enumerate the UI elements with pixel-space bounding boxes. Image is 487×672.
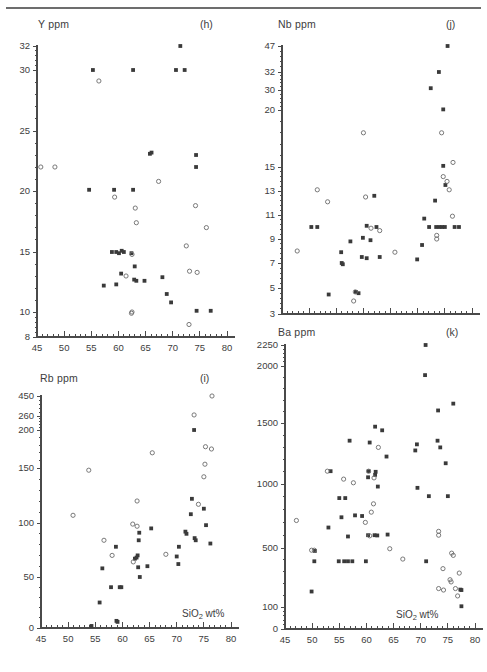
data-point-filled-square — [177, 545, 181, 549]
data-point-open-circle — [441, 567, 445, 571]
data-point-open-circle — [388, 547, 392, 551]
data-point-filled-square — [131, 188, 135, 192]
svg-text:0: 0 — [273, 623, 278, 634]
svg-text:10: 10 — [19, 306, 30, 317]
data-point-filled-square — [346, 535, 350, 539]
svg-text:1000: 1000 — [257, 478, 278, 489]
data-point-open-circle — [53, 165, 57, 169]
panel-rb-plot: 4502602001501005004550556065707580 — [0, 340, 244, 672]
data-point-filled-square — [437, 70, 441, 74]
data-point-filled-square — [349, 240, 353, 244]
svg-text:60: 60 — [361, 634, 372, 645]
data-point-filled-square — [309, 225, 313, 229]
data-point-open-circle — [456, 594, 460, 598]
data-point-open-circle — [124, 274, 128, 278]
data-point-open-circle — [202, 475, 206, 479]
data-point-filled-square — [385, 455, 389, 459]
svg-text:70: 70 — [415, 634, 426, 645]
data-point-filled-square — [112, 188, 116, 192]
data-point-filled-square — [369, 238, 373, 242]
data-point-filled-square — [420, 243, 424, 247]
data-point-filled-square — [134, 279, 138, 283]
data-point-filled-square — [423, 373, 427, 377]
data-point-filled-square — [453, 225, 457, 229]
data-point-open-circle — [450, 214, 454, 218]
data-point-open-circle — [364, 195, 368, 199]
data-point-filled-square — [149, 527, 153, 531]
data-point-open-circle — [210, 394, 214, 398]
data-point-open-circle — [326, 200, 330, 204]
data-point-filled-square — [185, 532, 189, 536]
svg-text:47: 47 — [264, 40, 275, 51]
svg-text:75: 75 — [199, 633, 210, 644]
data-point-filled-square — [122, 250, 126, 254]
data-point-filled-square — [315, 225, 319, 229]
data-point-filled-square — [195, 309, 199, 313]
data-point-filled-square — [376, 485, 380, 489]
data-point-filled-square — [194, 538, 198, 542]
data-point-filled-square — [209, 309, 213, 313]
data-point-open-circle — [187, 269, 191, 273]
data-point-filled-square — [380, 428, 384, 432]
data-point-open-circle — [453, 586, 457, 590]
data-point-open-circle — [131, 522, 135, 526]
panel-y-plot: 32302520151084550556065707580 — [0, 0, 244, 340]
data-point-open-circle — [393, 250, 397, 254]
data-point-filled-square — [446, 494, 450, 498]
svg-text:200: 200 — [18, 424, 34, 435]
data-point-filled-square — [91, 68, 95, 72]
svg-text:55: 55 — [334, 634, 345, 645]
panel-ba-ppm: Ba ppm (k) SiO2 wt% 22502000150010005001… — [244, 323, 487, 672]
data-point-filled-square — [116, 620, 120, 624]
svg-text:150: 150 — [18, 462, 34, 473]
data-point-filled-square — [194, 165, 198, 169]
data-point-filled-square — [341, 262, 345, 266]
data-point-open-circle — [192, 413, 196, 417]
data-point-filled-square — [415, 258, 419, 262]
data-point-filled-square — [372, 194, 376, 198]
svg-text:25: 25 — [19, 125, 30, 136]
panel-nb-ppm: Nb ppm (j) 473230201513119753 — [244, 0, 487, 340]
data-point-open-circle — [378, 229, 382, 233]
data-point-open-circle — [352, 299, 356, 303]
data-point-filled-square — [427, 225, 431, 229]
data-point-open-circle — [315, 188, 319, 192]
data-point-filled-square — [441, 108, 445, 112]
svg-text:15: 15 — [19, 246, 30, 257]
data-point-filled-square — [204, 523, 208, 527]
data-point-filled-square — [119, 272, 123, 276]
data-point-open-circle — [184, 244, 188, 248]
data-point-open-circle — [113, 195, 117, 199]
data-point-open-circle — [164, 552, 168, 556]
data-point-filled-square — [110, 250, 114, 254]
data-point-filled-square — [361, 236, 365, 240]
data-point-filled-square — [114, 283, 118, 287]
data-point-open-circle — [39, 165, 43, 169]
data-point-open-circle — [401, 557, 405, 561]
svg-text:60: 60 — [117, 633, 128, 644]
data-point-filled-square — [348, 439, 352, 443]
data-point-filled-square — [178, 44, 182, 48]
svg-text:20: 20 — [19, 185, 30, 196]
data-point-filled-square — [375, 225, 379, 229]
svg-text:50: 50 — [307, 634, 318, 645]
data-point-filled-square — [339, 250, 343, 254]
data-point-filled-square — [375, 534, 379, 538]
data-point-open-circle — [361, 131, 365, 135]
data-point-open-circle — [193, 204, 197, 208]
data-point-filled-square — [443, 225, 447, 229]
data-point-filled-square — [169, 301, 173, 305]
data-point-open-circle — [209, 447, 213, 451]
data-point-filled-square — [87, 188, 91, 192]
data-point-filled-square — [161, 275, 165, 279]
data-point-filled-square — [378, 255, 382, 259]
data-point-filled-square — [386, 533, 390, 537]
data-point-open-circle — [447, 188, 451, 192]
data-point-filled-square — [433, 199, 437, 203]
data-point-open-circle — [351, 481, 355, 485]
data-point-filled-square — [98, 601, 102, 605]
data-point-open-circle — [134, 221, 138, 225]
data-point-open-circle — [102, 538, 106, 542]
data-point-filled-square — [183, 68, 187, 72]
data-point-filled-square — [436, 409, 440, 413]
